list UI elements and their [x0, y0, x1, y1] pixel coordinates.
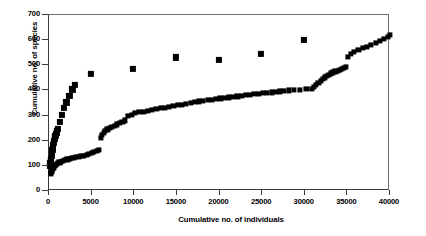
y-axis-tick-label: 600: [6, 35, 40, 43]
y-axis-tick: [42, 64, 48, 65]
data-point: [57, 119, 63, 125]
x-axis-tick: [304, 190, 305, 195]
data-point: [63, 99, 69, 105]
x-axis-tick-label: 20000: [208, 198, 228, 206]
y-axis-tick: [42, 14, 48, 15]
data-points-layer: [49, 15, 388, 189]
data-point: [59, 112, 65, 118]
data-point: [61, 105, 67, 111]
x-axis-tick-label: 35000: [336, 198, 356, 206]
y-axis-tick-label: 500: [6, 60, 40, 68]
y-axis-tick-label: 700: [6, 10, 40, 18]
data-point: [344, 64, 349, 69]
x-axis-tick-label: 25000: [251, 198, 271, 206]
data-point: [216, 57, 222, 63]
data-point: [55, 126, 61, 132]
data-point: [258, 51, 264, 57]
figure-container: Cumulative no. of species 01002003004005…: [0, 0, 426, 236]
x-axis-tick: [261, 190, 262, 195]
data-point: [129, 66, 135, 72]
x-axis-tick: [219, 190, 220, 195]
x-axis-tick-label: 5000: [82, 198, 98, 206]
x-axis-title: Cumulative no. of individuals: [0, 215, 426, 224]
y-axis-tick-label: 100: [6, 161, 40, 169]
y-axis-tick: [42, 89, 48, 90]
plot-area: [48, 14, 389, 190]
x-axis-tick-label: 40000: [379, 198, 399, 206]
y-axis-labels: 0100200300400500600700: [0, 0, 40, 236]
y-axis-tick: [42, 39, 48, 40]
x-axis-tick-label: 30000: [294, 198, 314, 206]
data-point: [173, 54, 179, 60]
data-point: [291, 88, 296, 93]
y-axis-tick-label: 300: [6, 111, 40, 119]
y-axis-tick: [42, 140, 48, 141]
data-point: [96, 147, 101, 152]
y-axis-tick-label: 400: [6, 86, 40, 94]
data-point: [66, 93, 72, 99]
data-point: [387, 32, 392, 37]
x-axis-tick: [133, 190, 134, 195]
x-axis-tick: [346, 190, 347, 195]
y-axis-tick-label: 0: [6, 186, 40, 194]
x-axis-tick-label: 0: [46, 198, 50, 206]
x-axis-tick: [48, 190, 49, 195]
y-axis-tick: [42, 115, 48, 116]
data-point: [88, 71, 94, 77]
data-point: [72, 82, 78, 88]
x-axis-tick-label: 10000: [123, 198, 143, 206]
data-point: [301, 37, 307, 43]
data-point: [122, 118, 127, 123]
x-axis-tick: [176, 190, 177, 195]
x-axis-tick-label: 15000: [166, 198, 186, 206]
x-axis-tick: [389, 190, 390, 195]
y-axis-tick: [42, 165, 48, 166]
data-point: [297, 87, 302, 92]
x-axis-tick: [91, 190, 92, 195]
y-axis-tick-label: 200: [6, 136, 40, 144]
